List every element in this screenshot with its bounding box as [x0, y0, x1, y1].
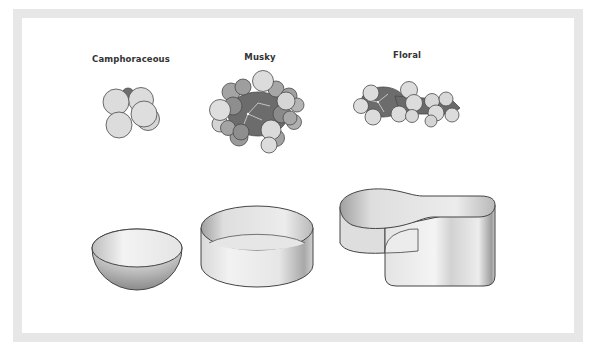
diagram-art: [0, 0, 601, 359]
camphoraceous-molecule: [103, 88, 160, 139]
cylinder-receptor: [201, 206, 313, 287]
musky-molecule: [210, 71, 305, 154]
bowl-receptor: [92, 229, 182, 290]
floral-molecule: [354, 82, 461, 128]
keyhole-receptor: [340, 189, 495, 286]
